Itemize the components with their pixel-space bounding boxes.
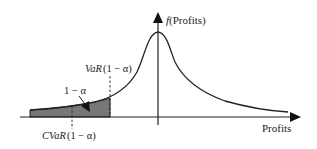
y-axis-arrow-icon <box>153 12 163 23</box>
cvar-label: CVaR(1 − α) <box>42 130 96 142</box>
x-axis-arrow-icon <box>290 112 301 122</box>
x-axis-label: Profits <box>262 122 291 134</box>
y-axis-label: f(Profits) <box>166 14 206 27</box>
density-curve <box>30 32 288 112</box>
tail-probability-label: 1 − α <box>64 85 86 96</box>
profit-distribution-diagram: f(Profits) Profits VaR(1 − α) 1 − α CVaR… <box>0 0 317 149</box>
var-label: VaR(1 − α) <box>85 63 132 75</box>
tail-pointer-line <box>79 96 85 104</box>
